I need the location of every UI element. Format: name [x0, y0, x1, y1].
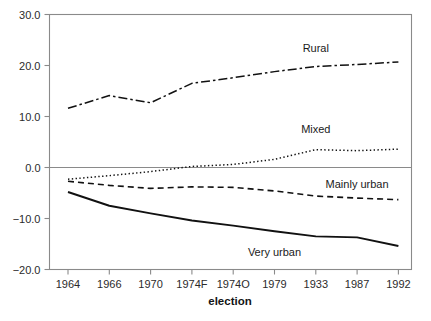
series-lines: [68, 62, 398, 246]
x-tick-label: 1970: [138, 278, 162, 290]
series-label-mixed: Mixed: [301, 123, 330, 135]
x-tick-label: 1979: [262, 278, 286, 290]
series-line-very-urban: [68, 192, 398, 246]
series-line-rural: [68, 62, 398, 108]
y-axis-ticks: 30.020.010.00.0−10.0−20.0: [13, 9, 50, 276]
series-label-rural: Rural: [303, 42, 329, 54]
x-tick-label: 1964: [56, 278, 80, 290]
y-tick-label: 30.0: [19, 9, 40, 21]
y-tick-label: −10.0: [13, 213, 41, 225]
x-tick-label: 1987: [345, 278, 369, 290]
series-label-very-urban: Very urban: [248, 246, 301, 258]
y-tick-label: 10.0: [19, 111, 40, 123]
x-tick-label: 1974F: [176, 278, 207, 290]
x-tick-label: 1974O: [217, 278, 250, 290]
series-label-mainly-urban: Mainly urban: [326, 178, 389, 190]
plot-frame-rect: [50, 15, 412, 270]
y-tick-label: −20.0: [13, 264, 41, 276]
x-tick-label: 1966: [97, 278, 121, 290]
series-labels: RuralMixedMainly urbanVery urban: [248, 42, 389, 259]
x-axis-title: election: [208, 295, 251, 307]
y-tick-label: 0.0: [25, 162, 40, 174]
y-tick-label: 20.0: [19, 60, 40, 72]
series-line-mixed: [68, 149, 398, 179]
x-axis-ticks: 1964196619701974F1974O1979193319871992: [56, 270, 411, 290]
chart-container: 30.020.010.00.0−10.0−20.0 19641966197019…: [0, 0, 431, 321]
x-tick-label: 1933: [304, 278, 328, 290]
line-chart: 30.020.010.00.0−10.0−20.0 19641966197019…: [0, 0, 431, 321]
x-tick-label: 1992: [386, 278, 410, 290]
plot-frame: [50, 15, 412, 270]
